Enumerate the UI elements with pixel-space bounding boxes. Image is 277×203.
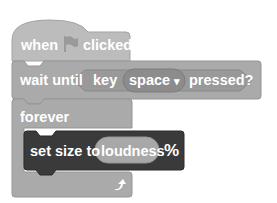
- chevron-down-icon: ▾: [174, 75, 180, 87]
- forever-label: forever: [20, 110, 69, 125]
- forever-block-shape: [0, 0, 277, 203]
- loop-arrow-icon: [113, 178, 127, 192]
- hat-label-clicked: clicked: [83, 38, 132, 53]
- loudness-reporter[interactable]: loudness: [101, 144, 165, 159]
- wait-until-block-shape: [0, 0, 277, 203]
- condition-label-pressed: pressed?: [189, 73, 253, 88]
- set-size-block-shape: [0, 0, 277, 203]
- hat-label-when: when: [21, 38, 58, 53]
- set-size-label: set size to: [30, 144, 100, 159]
- wait-until-block[interactable]: [0, 0, 277, 203]
- key-dropdown-value: space: [129, 72, 170, 88]
- forever-block[interactable]: [0, 0, 277, 203]
- percent-suffix: %: [164, 142, 179, 159]
- condition-label-key: key: [93, 73, 117, 88]
- green-flag-icon: [63, 35, 79, 53]
- when-flag-clicked-block[interactable]: [0, 0, 277, 203]
- wait-until-label: wait until: [20, 73, 83, 88]
- key-dropdown[interactable]: space ▾: [129, 73, 180, 88]
- set-size-block[interactable]: [0, 0, 277, 203]
- hat-block-shape: [0, 0, 277, 203]
